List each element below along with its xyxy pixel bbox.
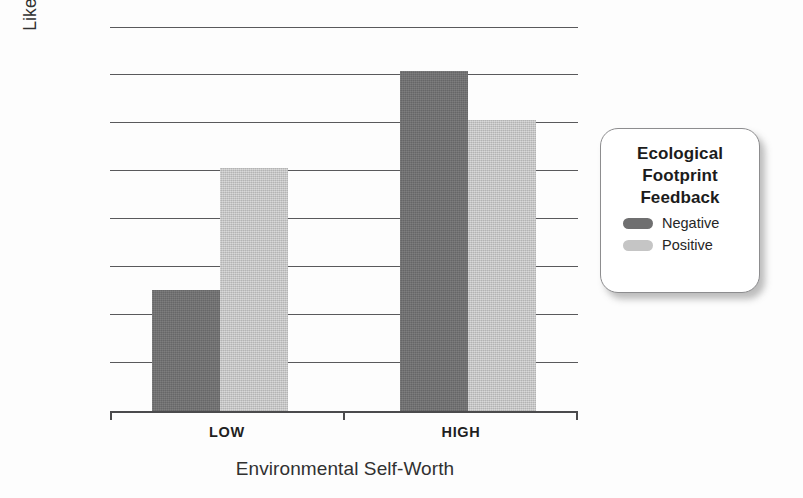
legend-title-line-1: Ecological bbox=[607, 143, 753, 165]
x-axis bbox=[110, 411, 578, 420]
x-axis-tick-end bbox=[576, 411, 578, 420]
legend-swatch-negative-icon bbox=[623, 218, 653, 229]
legend-label-negative: Negative bbox=[662, 216, 719, 231]
bar-high-positive bbox=[468, 120, 536, 413]
y-axis-title: Likelihood of Writing Environmental Poli… bbox=[10, 0, 74, 82]
legend-label-positive: Positive bbox=[662, 238, 713, 253]
legend-items: Negative Positive bbox=[607, 216, 753, 252]
bar-chart: Likelihood of Writing Environmental Poli… bbox=[0, 0, 803, 498]
x-axis-title: Environmental Self-Worth bbox=[80, 458, 610, 480]
x-axis-tick-start bbox=[110, 411, 112, 420]
plot-area bbox=[110, 20, 578, 412]
legend-swatch-positive-icon bbox=[623, 240, 653, 251]
legend: Ecological Footprint Feedback Negative P… bbox=[600, 128, 760, 293]
legend-title: Ecological Footprint Feedback bbox=[607, 143, 753, 208]
x-tick-label-low: LOW bbox=[110, 424, 344, 440]
legend-item-positive: Positive bbox=[623, 238, 753, 253]
y-axis-title-line-1: Likelihood of Writing Environmental bbox=[22, 0, 40, 31]
legend-title-line-3: Feedback bbox=[607, 187, 753, 209]
legend-title-line-2: Footprint bbox=[607, 165, 753, 187]
bar-high-negative bbox=[400, 71, 468, 412]
bar-low-negative bbox=[152, 290, 220, 412]
x-axis-tick-middle bbox=[343, 411, 345, 420]
x-tick-label-high: HIGH bbox=[344, 424, 578, 440]
bar-low-positive bbox=[220, 168, 288, 412]
legend-item-negative: Negative bbox=[623, 216, 753, 231]
bars-layer bbox=[110, 20, 578, 412]
